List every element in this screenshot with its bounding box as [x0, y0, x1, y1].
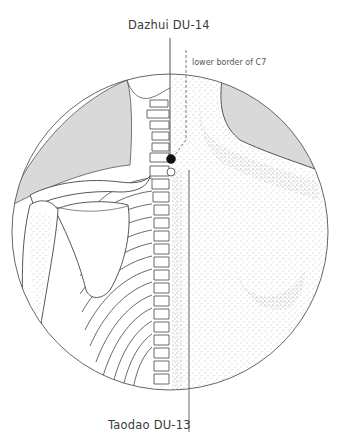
c7-note-label: lower border of C7	[192, 58, 266, 67]
cervical-vertebrae	[147, 100, 169, 162]
taodao-label: Taodao DU-13	[108, 418, 191, 432]
figure-content	[12, 75, 330, 405]
scapula	[55, 202, 129, 298]
midline-stipple	[172, 170, 182, 400]
neck-outline	[127, 80, 170, 98]
anatomy-figure: Dazhui DU-14 lower border of C7 Taodao D…	[0, 0, 341, 448]
thoracic-spine	[150, 166, 169, 384]
taodao-point-marker	[167, 168, 175, 176]
dazhui-point-marker	[167, 155, 176, 164]
illustration-svg	[0, 0, 341, 448]
dazhui-label: Dazhui DU-14	[128, 18, 210, 32]
